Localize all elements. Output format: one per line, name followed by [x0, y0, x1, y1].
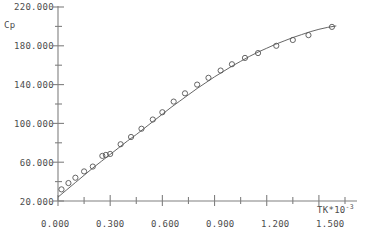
- y-tick-label-60: 60.000: [2, 158, 54, 168]
- data-point-marker: [206, 75, 211, 80]
- x-tick-label-1500: 1.500: [316, 219, 345, 229]
- x-axis-label-base: TK*10: [317, 205, 346, 215]
- curve-path: [58, 26, 336, 197]
- y-tick-label-100: 100.000: [2, 119, 54, 129]
- data-point-marker: [73, 175, 78, 180]
- x-tick-label-0: 0.000: [41, 219, 70, 229]
- data-point-marker: [81, 169, 86, 174]
- plot-area: [0, 0, 382, 236]
- y-axis-label: Cp: [4, 20, 15, 30]
- data-point-marker: [100, 153, 105, 158]
- y-tick-label-20: 20.000: [2, 197, 54, 207]
- x-axis-label: TK*10-3: [317, 203, 354, 215]
- x-tick-label-300: 0.300: [96, 219, 125, 229]
- y-tick-label-140: 140.000: [2, 80, 54, 90]
- data-point-marker: [195, 82, 200, 87]
- data-point-marker: [290, 37, 295, 42]
- data-point-marker: [66, 180, 71, 185]
- x-tick-label-600: 0.600: [151, 219, 180, 229]
- data-point-marker: [59, 187, 64, 192]
- x-tick-label-1200: 1.200: [261, 219, 290, 229]
- chart-container: 220.000 180.000 140.000 100.000 60.000 2…: [0, 0, 382, 236]
- data-point-marker: [171, 99, 176, 104]
- data-point-marker: [218, 68, 223, 73]
- data-point-marker: [306, 33, 311, 38]
- axes: [53, 6, 357, 206]
- data-points: [59, 24, 335, 192]
- x-tick-label-900: 0.900: [206, 219, 235, 229]
- x-axis-label-exponent: -3: [346, 203, 354, 211]
- data-point-marker: [182, 91, 187, 96]
- y-tick-label-180: 180.000: [2, 41, 54, 51]
- y-tick-label-220: 220.000: [2, 2, 54, 12]
- fitted-curve: [58, 26, 336, 197]
